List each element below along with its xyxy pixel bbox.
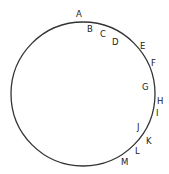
label-a: A: [76, 9, 82, 19]
label-j: J: [136, 122, 140, 132]
label-h: H: [157, 96, 163, 106]
label-c: C: [100, 29, 106, 39]
circle-outline: [11, 22, 155, 166]
label-m: M: [121, 157, 128, 167]
label-i: I: [156, 108, 159, 118]
label-d: D: [112, 37, 119, 47]
label-g: G: [142, 82, 149, 92]
label-l: L: [135, 146, 140, 156]
circle-diagram: A B C D E F G H I J K L M: [0, 0, 169, 174]
label-b: B: [87, 24, 93, 34]
label-k: K: [146, 136, 152, 146]
label-f: F: [151, 58, 156, 68]
label-e: E: [140, 41, 145, 51]
